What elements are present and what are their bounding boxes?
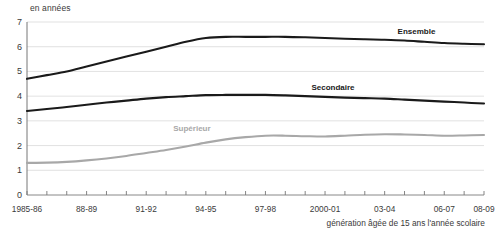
x-axis-tick-label: 08-09 — [473, 204, 494, 214]
x-axis-tick-label: 06-07 — [434, 204, 455, 214]
series-label-ensemble: Ensemble — [398, 27, 436, 36]
x-axis-tick-label: 94-95 — [195, 204, 216, 214]
series-label-supérieur: Supérieur — [173, 123, 210, 132]
series-line-supérieur — [27, 134, 484, 163]
x-axis-tick-label: 1985-86 — [12, 204, 42, 214]
series-line-ensemble — [27, 37, 484, 79]
x-axis-caption: génération âgée de 15 ans l'année scolai… — [327, 218, 485, 228]
series-line-secondaire — [27, 95, 484, 111]
x-axis-tick-label: 03-04 — [374, 204, 395, 214]
x-axis-tick-label: 91-92 — [136, 204, 157, 214]
x-axis-tick-label: 97-98 — [255, 204, 276, 214]
x-axis-tick-label: 88-89 — [76, 204, 97, 214]
x-axis-tick-label: 2000-01 — [310, 204, 340, 214]
series-label-secondaire: Secondaire — [311, 82, 354, 91]
